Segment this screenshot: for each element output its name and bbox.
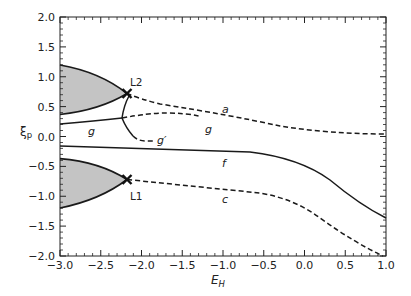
label-l2: L2: [130, 76, 143, 88]
svg-text:−0.5: −0.5: [28, 160, 55, 173]
label-gprime: g′: [157, 134, 167, 147]
x-ticks: [60, 17, 386, 256]
svg-text:−2.5: −2.5: [87, 259, 114, 272]
svg-text:−2.0: −2.0: [128, 259, 155, 272]
x-tick-labels: −3.0 −2.5 −2.0 −1.5 −1.0 −0.5 0.0 0.5 1.…: [47, 259, 395, 272]
svg-text:2.0: 2.0: [38, 11, 56, 24]
chart: a g g g′ f c L2 L1: [0, 0, 411, 296]
svg-text:0.0: 0.0: [296, 259, 314, 272]
svg-text:0.5: 0.5: [337, 259, 355, 272]
y-axis-label: ξp: [20, 125, 32, 140]
x-axis-label: EH: [211, 273, 226, 289]
svg-text:1.0: 1.0: [38, 71, 56, 84]
svg-text:1.5: 1.5: [38, 41, 56, 54]
svg-text:−1.0: −1.0: [210, 259, 237, 272]
y-ticks: [60, 17, 386, 256]
curve-g-solid: [60, 118, 122, 124]
curve-g-dashed: [122, 113, 199, 118]
svg-text:−0.5: −0.5: [250, 259, 277, 272]
svg-text:−1.5: −1.5: [28, 220, 55, 233]
lower-shaded-region: [60, 159, 127, 208]
y-tick-labels: 2.0 1.5 1.0 0.5 0.0 −0.5 −1.0 −1.5 −2.0: [28, 11, 55, 263]
label-a: a: [222, 103, 229, 116]
y-minor-ticks: [60, 23, 386, 250]
label-g-right: g: [205, 123, 212, 136]
svg-text:1.0: 1.0: [377, 259, 395, 272]
upper-shaded-region: [60, 65, 127, 115]
svg-text:0.0: 0.0: [38, 131, 56, 144]
label-c: c: [222, 193, 228, 206]
svg-text:−1.0: −1.0: [28, 190, 55, 203]
label-f: f: [222, 157, 228, 170]
plot-frame: [60, 17, 386, 256]
x-minor-ticks: [68, 17, 378, 256]
label-l1: L1: [130, 190, 143, 202]
curve-gprime: [133, 136, 155, 141]
svg-text:−2.0: −2.0: [28, 250, 55, 263]
label-g-left: g: [88, 125, 95, 138]
svg-text:0.5: 0.5: [38, 101, 56, 114]
svg-text:−1.5: −1.5: [169, 259, 196, 272]
